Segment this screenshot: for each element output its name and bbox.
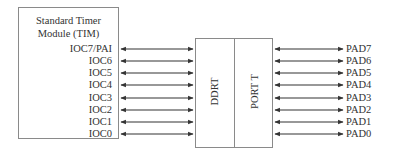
pad-label-7: PAD7 xyxy=(346,43,371,55)
connection-arrows xyxy=(0,0,397,153)
pad-label-5: PAD5 xyxy=(346,67,371,79)
pad-label-1: PAD1 xyxy=(346,116,371,128)
pad-label-2: PAD2 xyxy=(346,104,371,116)
pad-label-4: PAD4 xyxy=(346,79,371,91)
pad-label-6: PAD6 xyxy=(346,55,371,67)
pad-label-3: PAD3 xyxy=(346,92,371,104)
pad-label-0: PAD0 xyxy=(346,128,371,140)
